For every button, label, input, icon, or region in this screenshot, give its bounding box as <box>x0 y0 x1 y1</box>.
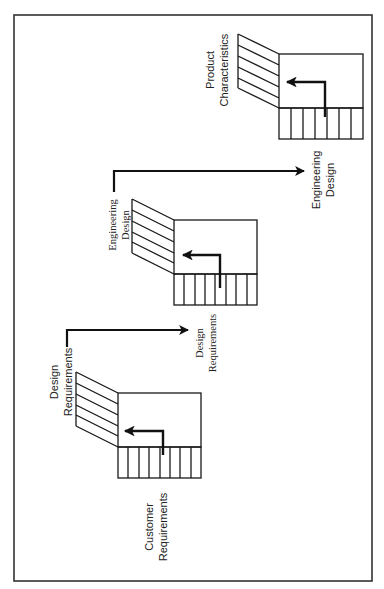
label-line-1: Design <box>48 365 60 399</box>
flow-arrow-icon <box>125 431 163 455</box>
input-stripes <box>279 108 363 139</box>
label-line-2: Requirements <box>62 347 74 416</box>
label-engineering-design-target: Engineering Design <box>310 151 336 210</box>
input-stripes <box>174 274 257 305</box>
label-line-2: Design <box>120 209 131 239</box>
label-design-requirements-target: Design Requirements <box>194 314 218 372</box>
relationship-matrix <box>174 220 257 274</box>
output-stripes <box>76 372 118 447</box>
output-stripes <box>238 34 279 108</box>
label-line-1: Design <box>194 327 205 357</box>
input-stripes <box>118 447 201 478</box>
label-design-requirements-source: Design Requirements <box>48 347 74 416</box>
connector-arrow-engineering-design <box>114 171 304 192</box>
relationship-matrix <box>118 393 201 447</box>
label-customer-requirements: Customer Requirements <box>143 492 169 561</box>
label-line-1: Product <box>204 51 216 89</box>
matrix-customer-to-design <box>76 372 201 478</box>
label-line-1: Engineering <box>310 151 322 210</box>
matrix-engineering-to-product <box>238 34 363 139</box>
label-line-2: Requirements <box>207 314 218 372</box>
label-line-2: Requirements <box>157 492 169 561</box>
qfd-cascade-diagram: Product Characteristics Engineering Desi… <box>0 0 384 589</box>
label-line-1: Engineering <box>107 199 118 251</box>
label-product-characteristics: Product Characteristics <box>204 33 230 106</box>
label-engineering-design-source: Engineering Design <box>107 199 131 251</box>
label-line-2: Characteristics <box>218 33 230 106</box>
output-stripes <box>132 199 174 274</box>
diagram-border <box>14 15 372 581</box>
label-line-1: Customer <box>143 503 155 551</box>
matrix-design-to-engineering <box>132 199 257 305</box>
label-line-2: Design <box>324 163 336 197</box>
flow-arrow-icon <box>287 82 325 117</box>
connector-arrow-design-requirements <box>67 330 188 347</box>
